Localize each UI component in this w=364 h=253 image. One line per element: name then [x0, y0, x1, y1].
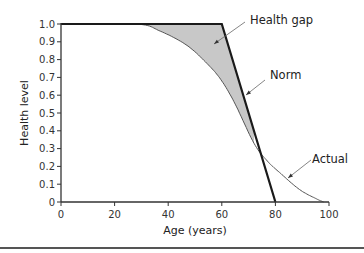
x-axis-ticks: 020406080100: [58, 202, 339, 220]
annotation-norm: Norm: [246, 68, 301, 95]
y-tick-label: 0: [49, 197, 55, 208]
actual-curve: [61, 24, 324, 202]
x-tick-label: 40: [162, 209, 175, 220]
y-tick-label: 0.4: [39, 125, 55, 136]
y-tick-label: 0.5: [39, 108, 55, 119]
y-tick-label: 1.0: [39, 19, 55, 30]
y-tick-label: 0.2: [39, 161, 55, 172]
actual-label: Actual: [312, 152, 348, 166]
y-tick-label: 0.1: [39, 179, 55, 190]
health-gap-label: Health gap: [250, 13, 313, 27]
y-axis-title: Health level: [18, 80, 31, 146]
annotation-health-gap: Health gap: [214, 13, 313, 44]
norm-label: Norm: [270, 68, 301, 82]
x-tick-label: 80: [269, 209, 282, 220]
x-tick-label: 20: [108, 209, 121, 220]
y-axis-ticks: 00.10.20.30.40.50.60.70.80.91.0: [39, 19, 61, 208]
y-tick-label: 0.7: [39, 72, 55, 83]
y-tick-label: 0.6: [39, 90, 55, 101]
bottom-rule-divider: [0, 247, 364, 249]
x-tick-label: 100: [319, 209, 338, 220]
x-tick-label: 60: [215, 209, 228, 220]
annotation-actual: Actual: [288, 152, 348, 178]
y-tick-label: 0.8: [39, 54, 55, 65]
y-tick-label: 0.3: [39, 143, 55, 154]
y-tick-label: 0.9: [39, 36, 55, 47]
x-tick-label: 0: [58, 209, 64, 220]
health-gap-chart: 00.10.20.30.40.50.60.70.80.91.0 02040608…: [0, 0, 364, 253]
health-gap-area: [136, 24, 254, 143]
x-axis-title: Age (years): [163, 224, 227, 237]
